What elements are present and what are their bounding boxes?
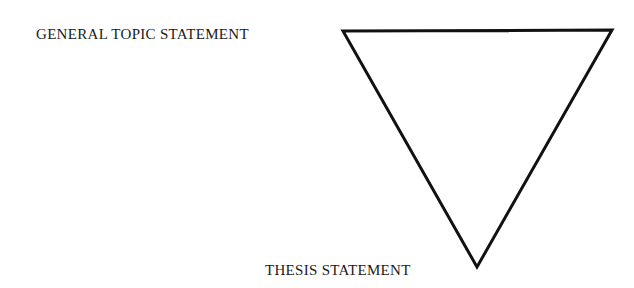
inverted-triangle-shape — [343, 30, 612, 267]
inverted-triangle-diagram — [0, 0, 634, 288]
